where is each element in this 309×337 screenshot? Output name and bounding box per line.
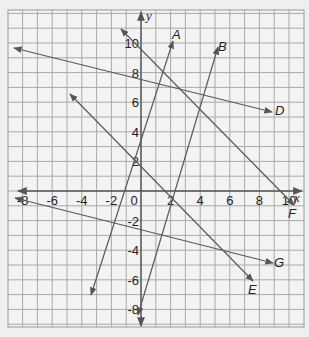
x-tick-label: 4	[197, 193, 204, 208]
line-f-label: F	[288, 206, 297, 221]
y-tick-label: -4	[127, 243, 139, 258]
x-tick-label: -2	[106, 193, 118, 208]
x-tick-label: 8	[256, 193, 263, 208]
y-tick-label: 6	[132, 95, 139, 110]
y-axis-label: y	[144, 8, 152, 23]
line-b-label: B	[218, 39, 227, 54]
x-tick-label: 0	[130, 193, 137, 208]
x-tick-label: 6	[226, 193, 233, 208]
y-tick-label: 4	[132, 125, 139, 140]
line-e-label: E	[248, 282, 257, 297]
y-tick-label: 10	[125, 36, 139, 51]
y-tick-label: -8	[127, 302, 139, 317]
line-g-label: G	[274, 255, 284, 270]
line-a-label: A	[171, 27, 181, 42]
line-d-label: D	[275, 103, 284, 118]
y-tick-label: -6	[127, 273, 139, 288]
x-tick-label: -4	[76, 193, 88, 208]
coordinate-plane-diagram: x y -8-6-4-20246810 108642-2-4-6-8 A B D…	[0, 0, 309, 337]
